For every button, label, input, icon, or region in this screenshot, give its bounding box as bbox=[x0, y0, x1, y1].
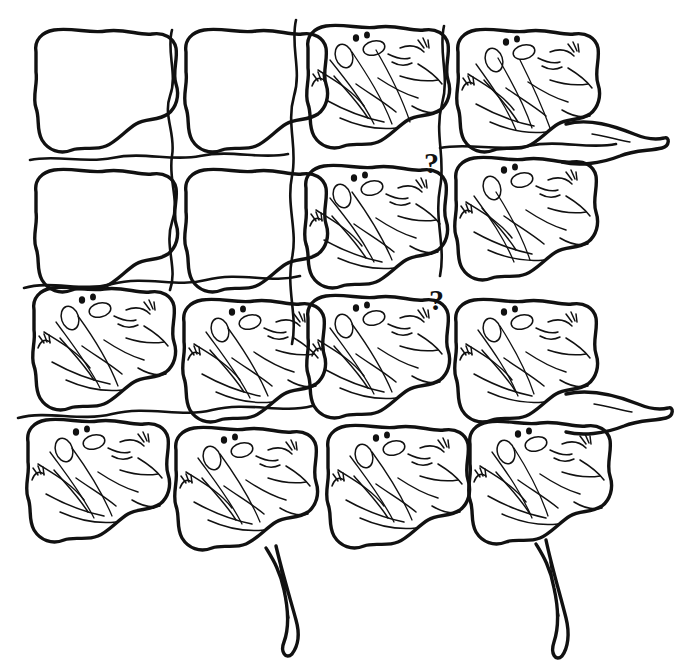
tessellation-artwork bbox=[0, 0, 688, 664]
tessellation-canvas: ? ? bbox=[0, 0, 688, 664]
question-mark-lower: ? bbox=[429, 285, 444, 315]
artwork-background bbox=[0, 0, 688, 664]
question-mark-upper: ? bbox=[424, 148, 439, 178]
